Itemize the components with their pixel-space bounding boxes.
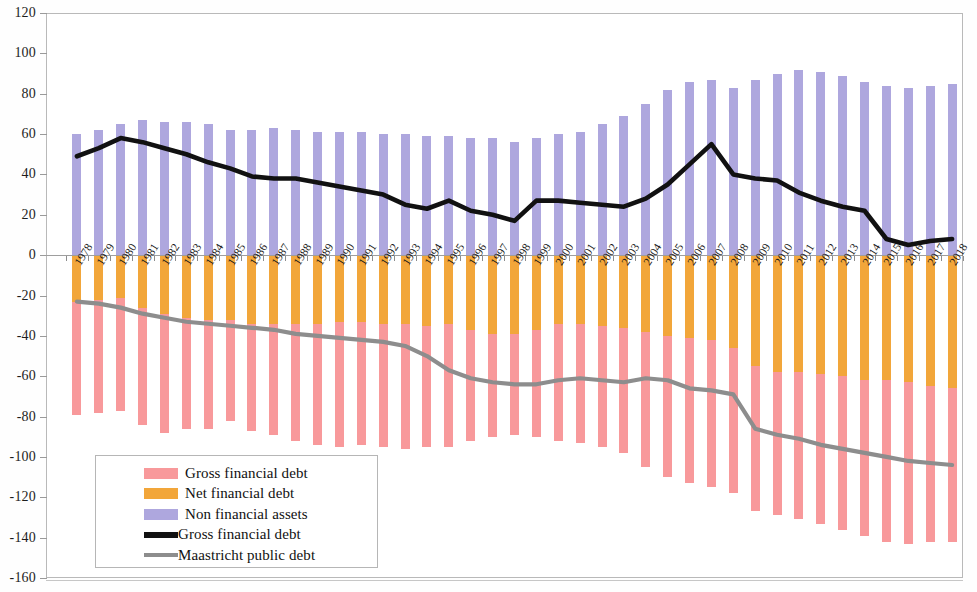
- y-axis-tick-label: 40: [0, 166, 36, 182]
- legend-line-swatch: [144, 532, 178, 538]
- legend-color-swatch: [144, 468, 178, 479]
- legend-item-label: Gross financial debt: [185, 465, 308, 482]
- legend-item-label: Gross financial debt: [178, 526, 301, 543]
- y-axis-tick-label: 100: [0, 45, 36, 61]
- legend-color-swatch: [144, 509, 178, 520]
- legend-item: Maastricht public debt: [96, 545, 377, 566]
- line-gross-financial-debt: [77, 138, 952, 245]
- y-axis-tick-label: -20: [0, 288, 36, 304]
- y-axis-tick-label: -40: [0, 328, 36, 344]
- legend-item-label: Maastricht public debt: [178, 547, 315, 564]
- legend-item: Non financial assets: [96, 504, 377, 525]
- y-axis-tick-label: -80: [0, 409, 36, 425]
- y-axis-tick: [40, 578, 47, 579]
- y-axis-tick-label: -100: [0, 449, 36, 465]
- chart-figure: 120100806040200-20-40-60-80-100-120-140-…: [0, 0, 977, 592]
- y-axis-tick-label: -160: [0, 570, 36, 586]
- legend-item: Gross financial debt: [96, 525, 377, 546]
- y-axis-tick-label: 120: [0, 5, 36, 21]
- line-maastricht-public-debt: [77, 302, 952, 465]
- y-axis-tick-label: -120: [0, 489, 36, 505]
- y-axis-tick-label: -60: [0, 368, 36, 384]
- legend-item: Gross financial debt: [96, 463, 377, 484]
- y-axis-tick-label: 60: [0, 126, 36, 142]
- y-axis-tick-label: 20: [0, 207, 36, 223]
- legend-item: Net financial debt: [96, 484, 377, 505]
- legend-color-swatch: [144, 488, 178, 499]
- y-axis-tick-label: 80: [0, 86, 36, 102]
- legend-item-label: Non financial assets: [185, 506, 308, 523]
- y-axis-tick-label: 0: [0, 247, 36, 263]
- chart-legend: Gross financial debtNet financial debtNo…: [95, 455, 378, 568]
- figure-baseline-rule: [46, 580, 963, 581]
- y-axis-tick-label: -140: [0, 530, 36, 546]
- legend-item-label: Net financial debt: [185, 485, 294, 502]
- legend-line-swatch: [144, 553, 178, 557]
